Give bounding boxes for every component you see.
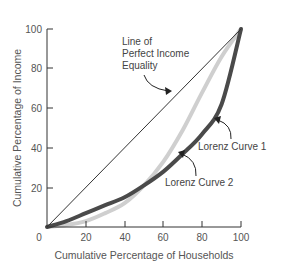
y-tick-label-60: 60: [31, 103, 43, 114]
curve2-label: Lorenz Curve 2: [165, 177, 234, 188]
x-ticks: [86, 221, 241, 227]
curve1-arrow: [218, 120, 231, 139]
x-tick-label-100: 100: [233, 232, 250, 243]
y-tick-label-20: 20: [31, 183, 43, 194]
x-tick-label-20: 20: [80, 232, 92, 243]
curve2-arrow: [182, 154, 196, 176]
equality-label-line-3: Equality: [122, 60, 158, 71]
x-tick-label-0: 0: [36, 232, 42, 243]
x-axis-title: Cumulative Percentage of Households: [54, 249, 233, 261]
x-tick-label-80: 80: [196, 232, 208, 243]
equality-arrowhead-icon: [165, 87, 172, 95]
y-tick-label-80: 80: [31, 63, 43, 74]
x-tick-label-60: 60: [157, 232, 169, 243]
y-tick-label-40: 40: [31, 143, 43, 154]
x-tick-label-40: 40: [119, 232, 131, 243]
y-ticks: [47, 29, 53, 188]
equality-label-line-1: Line of: [122, 36, 152, 47]
equality-arrow: [144, 75, 168, 91]
lorenz-chart: 100 80 60 40 20 0 20 40 60 80 100 Cumula…: [0, 0, 283, 277]
equality-label-line-2: Perfect Income: [122, 48, 190, 59]
y-tick-label-100: 100: [25, 24, 42, 35]
curve1-label: Lorenz Curve 1: [198, 141, 267, 152]
y-axis-title: Cumulative Percentage of Income: [11, 49, 23, 207]
